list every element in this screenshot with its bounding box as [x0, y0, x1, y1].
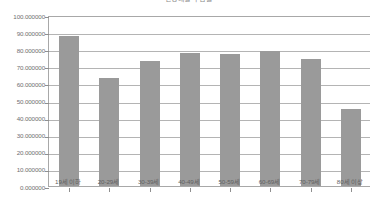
gridline: [49, 137, 370, 138]
y-axis-tick-label: 10.000000: [17, 166, 45, 173]
gridline: [49, 85, 370, 86]
x-tick-mark: [351, 188, 352, 192]
bar-chart: 연령대별 수검률 100.00000090.00000080.00000070.…: [0, 0, 377, 215]
gridline: [49, 68, 370, 69]
y-tick-mark: [45, 85, 49, 86]
y-tick-mark: [45, 68, 49, 69]
bar: [341, 109, 361, 186]
y-tick-mark: [45, 103, 49, 104]
y-axis-tick-label: 90.000000: [17, 30, 45, 37]
y-tick-mark: [45, 154, 49, 155]
y-tick-mark: [45, 17, 49, 18]
y-tick-mark: [45, 34, 49, 35]
x-tick-mark: [109, 188, 110, 192]
x-tick-mark: [230, 188, 231, 192]
y-axis-tick-label: 0.000000: [20, 184, 45, 191]
y-axis-tick-label: 70.000000: [17, 64, 45, 71]
gridline: [49, 171, 370, 172]
y-tick-mark: [45, 137, 49, 138]
y-tick-mark: [45, 171, 49, 172]
y-axis-tick-label: 50.000000: [17, 98, 45, 105]
x-axis-tick-label: 70-79세: [290, 178, 330, 186]
x-axis-tick-label: 60-69세: [249, 178, 289, 186]
y-axis-tick-label: 30.000000: [17, 132, 45, 139]
x-axis-tick-label: 20-29세: [88, 178, 128, 186]
x-tick-mark: [311, 188, 312, 192]
gridline: [49, 120, 370, 121]
x-tick-mark: [270, 188, 271, 192]
bar: [140, 61, 160, 186]
x-axis-tick-label: 19세 이하: [48, 178, 88, 186]
chart-title: 연령대별 수검률: [0, 0, 377, 4]
y-axis-tick-label: 80.000000: [17, 47, 45, 54]
y-tick-mark: [45, 188, 49, 189]
gridline: [49, 51, 370, 52]
x-axis-tick-label: 50-59세: [209, 178, 249, 186]
y-axis-tick-label: 20.000000: [17, 149, 45, 156]
x-tick-mark: [150, 188, 151, 192]
x-tick-mark: [69, 188, 70, 192]
plot-area: [48, 16, 370, 187]
y-tick-mark: [45, 120, 49, 121]
x-axis-tick-label: 40-49세: [169, 178, 209, 186]
bar: [99, 78, 119, 186]
bar: [260, 51, 280, 186]
bar: [59, 36, 79, 186]
y-axis-tick-label: 60.000000: [17, 81, 45, 88]
x-axis-tick-label: 80세 이상: [330, 178, 370, 186]
bar: [220, 54, 240, 186]
gridline: [49, 103, 370, 104]
bar: [301, 59, 321, 186]
x-axis-tick-label: 30-39세: [129, 178, 169, 186]
y-axis-tick-label: 100.000000: [13, 13, 45, 20]
y-axis-tick-label: 40.000000: [17, 115, 45, 122]
bar: [180, 53, 200, 186]
gridline: [49, 34, 370, 35]
x-tick-mark: [190, 188, 191, 192]
gridline: [49, 154, 370, 155]
y-tick-mark: [45, 51, 49, 52]
